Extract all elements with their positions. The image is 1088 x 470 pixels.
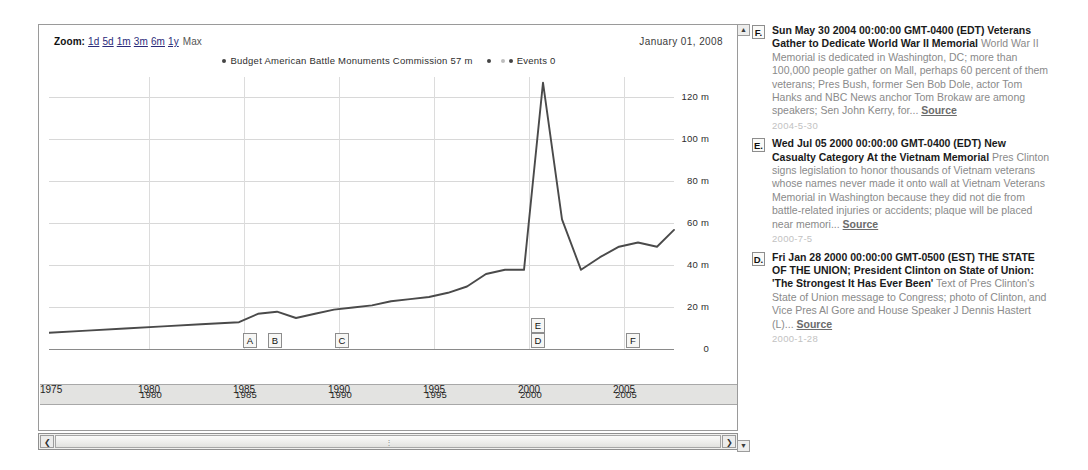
event-marker-d[interactable]: D bbox=[531, 333, 545, 348]
y-tick-60m: 60 m bbox=[687, 217, 709, 228]
chart-legend: Budget American Battle Monuments Commiss… bbox=[39, 55, 739, 66]
scroll-left-arrow-icon[interactable]: ❮ bbox=[40, 435, 54, 448]
event-marker-b[interactable]: B bbox=[268, 333, 282, 348]
event-source-link-d[interactable]: Source bbox=[797, 318, 833, 330]
legend-dot-secondary-icon bbox=[487, 59, 491, 63]
zoom-option-max[interactable]: Max bbox=[183, 36, 202, 47]
x-axis-lower-labels: 1975 1980 1985 1990 1995 2000 2005 bbox=[38, 381, 738, 401]
event-marker-f[interactable]: F bbox=[626, 333, 640, 348]
event-date-d: 2000-1-28 bbox=[772, 332, 1050, 345]
legend-dot-icon bbox=[222, 59, 226, 63]
event-item-f[interactable]: F. Sun May 30 2004 00:00:00 GMT-0400 (ED… bbox=[752, 24, 1050, 132]
scrollbar-thumb[interactable]: ⋮ bbox=[55, 435, 721, 448]
event-headline-e: Wed Jul 05 2000 00:00:00 GMT-0400 (EDT) … bbox=[772, 137, 1006, 162]
event-marker-c[interactable]: C bbox=[335, 333, 349, 348]
zoom-option-1d[interactable]: 1d bbox=[88, 36, 99, 47]
scrollbar-grip-icon: ⋮ bbox=[385, 438, 392, 445]
x-lower-tick-2005: 2005 bbox=[613, 384, 635, 395]
y-tick-0: 0 bbox=[704, 343, 709, 354]
events-panel[interactable]: F. Sun May 30 2004 00:00:00 GMT-0400 (ED… bbox=[752, 24, 1050, 436]
series-line bbox=[49, 83, 674, 333]
legend-item-series[interactable]: Budget American Battle Monuments Commiss… bbox=[222, 55, 472, 66]
legend-events-label: Events 0 bbox=[517, 55, 556, 66]
events-scroll-up-icon[interactable]: ▲ bbox=[737, 24, 750, 36]
scroll-right-arrow-icon[interactable]: ❯ bbox=[722, 435, 736, 448]
zoom-option-1y[interactable]: 1y bbox=[168, 36, 179, 47]
horizontal-gridlines bbox=[49, 98, 674, 308]
vertical-gridlines bbox=[150, 77, 625, 349]
zoom-option-5d[interactable]: 5d bbox=[102, 36, 113, 47]
y-tick-20m: 20 m bbox=[687, 301, 709, 312]
event-source-link-e[interactable]: Source bbox=[843, 218, 879, 230]
event-badge-d[interactable]: D. bbox=[752, 252, 765, 266]
event-badge-f[interactable]: F. bbox=[752, 25, 765, 39]
zoom-option-1m[interactable]: 1m bbox=[117, 36, 131, 47]
chart-date-readout: January 01, 2008 bbox=[639, 36, 723, 47]
zoom-option-6m[interactable]: 6m bbox=[151, 36, 165, 47]
event-badge-e[interactable]: E. bbox=[752, 138, 765, 152]
events-scroll-down-icon[interactable]: ▼ bbox=[737, 440, 750, 452]
legend-events-dot-icon bbox=[509, 59, 513, 63]
x-lower-tick-2000: 2000 bbox=[518, 384, 540, 395]
chart-panel: Zoom:1d5d1m3m6m1yMax January 01, 2008 Bu… bbox=[38, 24, 738, 431]
y-tick-80m: 80 m bbox=[687, 175, 709, 186]
x-lower-tick-1990: 1990 bbox=[328, 384, 350, 395]
legend-dot-tertiary-icon bbox=[501, 59, 505, 63]
plot-area[interactable]: 120 m 100 m 80 m 60 m 40 m 20 m 0 A B C … bbox=[49, 77, 714, 372]
event-date-f: 2004-5-30 bbox=[772, 119, 1050, 132]
legend-item-events[interactable]: Events 0 bbox=[509, 55, 556, 66]
y-tick-100m: 100 m bbox=[682, 133, 709, 144]
zoom-controls: Zoom:1d5d1m3m6m1yMax bbox=[54, 36, 202, 47]
event-source-link-f[interactable]: Source bbox=[921, 104, 957, 116]
event-date-e: 2000-7-5 bbox=[772, 232, 1050, 245]
scrollbar-track[interactable]: ⋮ bbox=[55, 435, 721, 448]
event-item-e[interactable]: E. Wed Jul 05 2000 00:00:00 GMT-0400 (ED… bbox=[752, 137, 1050, 245]
event-marker-e[interactable]: E bbox=[531, 318, 545, 333]
zoom-label: Zoom: bbox=[54, 36, 85, 47]
event-marker-a[interactable]: A bbox=[243, 333, 257, 348]
x-lower-tick-1995: 1995 bbox=[423, 384, 445, 395]
event-item-d[interactable]: D. Fri Jan 28 2000 00:00:00 GMT-0500 (ES… bbox=[752, 251, 1050, 346]
legend-series-label: Budget American Battle Monuments Commiss… bbox=[230, 55, 472, 66]
chart-svg bbox=[49, 77, 714, 372]
x-lower-tick-1985: 1985 bbox=[233, 384, 255, 395]
y-tick-40m: 40 m bbox=[687, 259, 709, 270]
x-lower-tick-1980: 1980 bbox=[138, 384, 160, 395]
x-lower-tick-1975: 1975 bbox=[40, 384, 62, 395]
timeline-horizontal-scrollbar[interactable]: ❮ ⋮ ❯ bbox=[38, 433, 738, 450]
y-tick-120m: 120 m bbox=[682, 91, 709, 102]
events-vertical-scrollbar[interactable]: ▲ ▼ bbox=[737, 24, 750, 452]
zoom-option-3m[interactable]: 3m bbox=[134, 36, 148, 47]
